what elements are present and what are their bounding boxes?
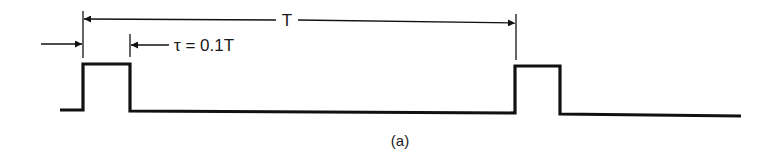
pulse-waveform: [60, 64, 741, 116]
period-label: T: [282, 11, 292, 30]
figure-caption: (a): [391, 132, 409, 149]
period-arrow-right: [298, 20, 515, 23]
pulse-train-diagram: T τ = 0.1T (a): [0, 0, 767, 155]
period-arrow-left: [84, 19, 276, 20]
pulse-width-label: τ = 0.1T: [174, 36, 234, 55]
